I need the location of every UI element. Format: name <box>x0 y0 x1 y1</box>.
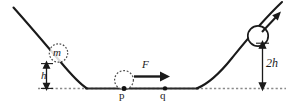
diagram-canvas <box>0 0 296 107</box>
point-q-label: q <box>160 90 166 101</box>
track-curve-left <box>14 8 88 89</box>
height-h-label: h <box>41 70 47 81</box>
velocity-arrow-icon <box>262 12 281 33</box>
force-arrow-icon <box>134 72 170 82</box>
height-2h-dimension-icon <box>259 42 265 90</box>
physics-diagram: m h 2h F p q <box>0 0 296 107</box>
mass-label: m <box>53 47 61 58</box>
point-p-label: p <box>119 90 125 101</box>
track-curve-right <box>197 2 282 88</box>
height-2h-label: 2h <box>266 57 278 69</box>
force-label: F <box>142 59 149 70</box>
